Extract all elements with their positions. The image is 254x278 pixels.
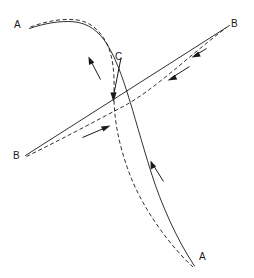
direction-arrow-b-upper-solid — [192, 49, 207, 58]
label-a-bottom-right: A — [199, 252, 206, 262]
figure-canvas: A B C B A — [0, 0, 254, 278]
c-leader-shaft — [114, 58, 122, 96]
label-b-top-right: B — [231, 19, 238, 29]
trajectory-a-dashed — [31, 19, 194, 267]
label-c-center: C — [115, 52, 122, 62]
trajectory-b-solid — [26, 26, 230, 156]
direction-arrow-a-upper — [89, 57, 101, 80]
direction-arrow-b-lower-dashed — [83, 126, 111, 138]
direction-arrow-b-upper-dashed — [168, 67, 190, 81]
direction-arrow-a-lower — [151, 161, 164, 182]
label-b-bottom-left: B — [13, 151, 20, 161]
label-a-top-left: A — [14, 20, 21, 30]
diagram-svg — [0, 0, 254, 278]
direction-arrows-group — [83, 49, 207, 182]
